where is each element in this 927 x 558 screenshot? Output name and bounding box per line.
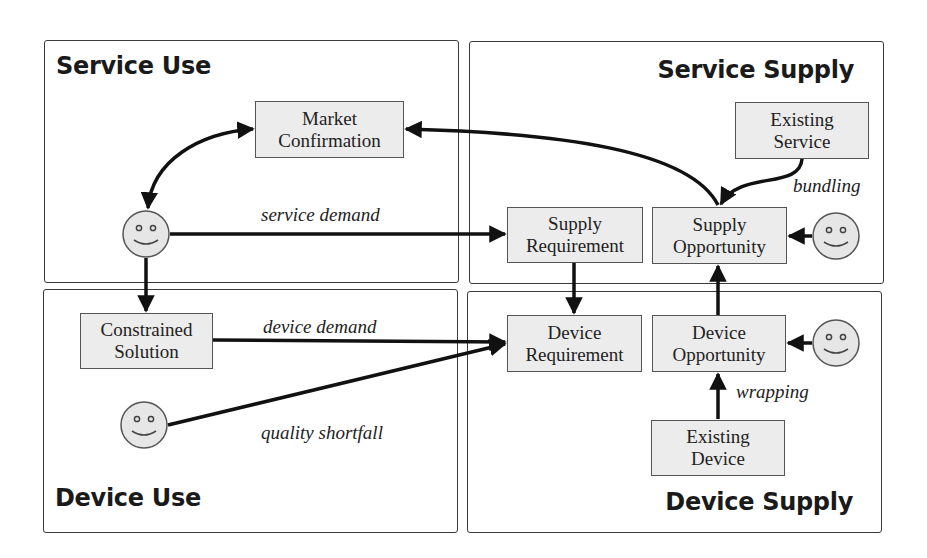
node-label-line2: Solution: [114, 341, 178, 363]
node-label-line1: Device: [548, 322, 602, 344]
actor-service-supplier[interactable]: [811, 211, 861, 261]
node-existing-device[interactable]: Existing Device: [651, 420, 785, 476]
node-supply-opportunity[interactable]: Supply Opportunity: [652, 207, 787, 264]
node-label-line1: Supply: [693, 214, 747, 236]
node-label-line1: Existing: [686, 426, 749, 448]
smiley-icon: [123, 211, 169, 257]
node-market-confirmation[interactable]: Market Confirmation: [255, 101, 404, 158]
node-label-line1: Constrained: [101, 319, 193, 341]
node-label-line1: Existing: [770, 109, 833, 131]
node-label-line2: Opportunity: [673, 236, 766, 258]
node-label-line2: Requirement: [525, 344, 623, 366]
panel-title-device-supply: Device Supply: [665, 488, 853, 516]
node-device-requirement[interactable]: Device Requirement: [507, 315, 642, 372]
node-label-line1: Device: [692, 322, 746, 344]
node-label-line2: Confirmation: [278, 130, 380, 152]
smiley-icon: [121, 402, 167, 448]
actor-device-user[interactable]: [119, 400, 169, 450]
panel-title-device-use: Device Use: [55, 484, 201, 512]
edge-label-device-demand: device demand: [263, 316, 376, 338]
edge-label-service-demand: service demand: [261, 204, 380, 226]
node-existing-service[interactable]: Existing Service: [735, 102, 869, 159]
edge-label-bundling: bundling: [793, 175, 861, 197]
node-label-line2: Opportunity: [673, 344, 766, 366]
edge-label-quality-shortfall: quality shortfall: [261, 422, 383, 444]
node-label-line2: Service: [774, 131, 831, 153]
node-label-line1: Market: [302, 108, 357, 130]
node-label-line2: Device: [691, 448, 745, 470]
node-label-line1: Supply: [548, 213, 602, 235]
smiley-icon: [813, 320, 859, 366]
actor-service-user[interactable]: [121, 209, 171, 259]
node-device-opportunity[interactable]: Device Opportunity: [652, 315, 786, 372]
node-label-line2: Requirement: [526, 235, 624, 257]
smiley-icon: [813, 213, 859, 259]
node-supply-requirement[interactable]: Supply Requirement: [507, 207, 643, 263]
panel-title-service-supply: Service Supply: [657, 56, 854, 84]
node-constrained-solution[interactable]: Constrained Solution: [80, 313, 213, 369]
edge-label-wrapping: wrapping: [736, 381, 809, 403]
actor-device-supplier[interactable]: [811, 318, 861, 368]
panel-title-service-use: Service Use: [56, 52, 211, 80]
